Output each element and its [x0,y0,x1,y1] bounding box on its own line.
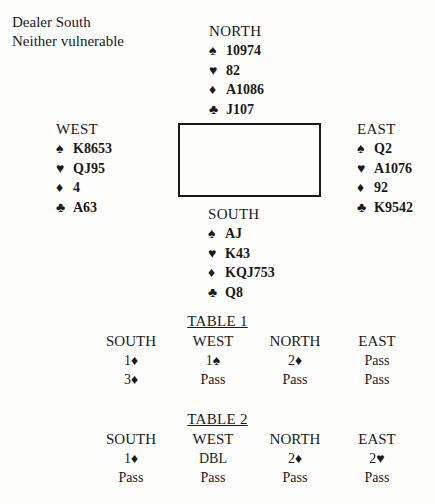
heart-icon: ♥ [357,159,374,179]
west-clubs: ♣A63 [56,198,112,218]
bid: DBL [172,449,254,468]
hand-north-label: NORTH [209,22,264,41]
table-diagram-box [178,123,321,197]
auction-1-title: TABLE 1 [0,313,435,330]
bid: Pass [90,468,172,487]
hand-south-label: SOUTH [208,205,275,224]
bid: 1♦ [90,351,172,370]
bid: Pass [336,370,418,389]
club-icon: ♣ [208,283,225,303]
auction-row: 1♦ DBL 2♦ 2♥ [90,449,420,468]
auction-row: Pass Pass Pass Pass [90,468,420,487]
bid: Pass [172,370,254,389]
south-spades: ♠AJ [208,224,275,244]
auction-header-row: SOUTH WEST NORTH EAST [90,332,420,351]
club-icon: ♣ [357,198,374,218]
auction-row: 3♦ Pass Pass Pass [90,370,420,389]
auction-1-grid: SOUTH WEST NORTH EAST 1♦ 1♠ 2♦ Pass 3♦ P… [90,332,420,389]
heart-icon: ♥ [209,61,226,81]
south-diamonds: ♦KQJ753 [208,263,275,283]
bid: Pass [172,468,254,487]
header-north: NORTH [254,430,336,449]
vulnerability-label: Neither vulnerable [12,32,124,51]
north-hearts: ♥82 [209,61,264,81]
spade-icon: ♠ [357,139,374,159]
hand-north: NORTH ♠10974 ♥82 ♦A1086 ♣J107 [209,22,264,119]
north-clubs: ♣J107 [209,100,264,120]
hand-west: WEST ♠K8653 ♥QJ95 ♦4 ♣A63 [56,120,112,217]
spade-icon: ♠ [209,41,226,61]
heart-icon: ♥ [208,244,225,264]
bid: 2♦ [254,449,336,468]
east-diamonds: ♦92 [357,178,413,198]
hand-east: EAST ♠Q2 ♥A1076 ♦92 ♣K9542 [357,120,413,217]
spade-icon: ♠ [56,139,73,159]
header-west: WEST [172,332,254,351]
bid: 1♠ [172,351,254,370]
south-hearts: ♥K43 [208,244,275,264]
bid: 2♦ [254,351,336,370]
header-south: SOUTH [90,332,172,351]
bid: Pass [336,351,418,370]
east-clubs: ♣K9542 [357,198,413,218]
diamond-icon: ♦ [208,263,225,283]
bid: Pass [254,370,336,389]
south-clubs: ♣Q8 [208,283,275,303]
east-hearts: ♥A1076 [357,159,413,179]
auction-2-grid: SOUTH WEST NORTH EAST 1♦ DBL 2♦ 2♥ Pass … [90,430,420,487]
spade-icon: ♠ [208,224,225,244]
header-south: SOUTH [90,430,172,449]
bid: Pass [254,468,336,487]
west-diamonds: ♦4 [56,178,112,198]
north-diamonds: ♦A1086 [209,80,264,100]
auction-row: 1♦ 1♠ 2♦ Pass [90,351,420,370]
hand-east-label: EAST [357,120,413,139]
club-icon: ♣ [56,198,73,218]
west-hearts: ♥QJ95 [56,159,112,179]
diamond-icon: ♦ [209,80,226,100]
heart-icon: ♥ [56,159,73,179]
diamond-icon: ♦ [56,178,73,198]
header-west: WEST [172,430,254,449]
bid: Pass [336,468,418,487]
bid: 2♥ [336,449,418,468]
deal-info: Dealer South Neither vulnerable [12,13,124,51]
auction-2-title: TABLE 2 [0,411,435,428]
east-spades: ♠Q2 [357,139,413,159]
west-spades: ♠K8653 [56,139,112,159]
header-north: NORTH [254,332,336,351]
bid: 3♦ [90,370,172,389]
hand-south: SOUTH ♠AJ ♥K43 ♦KQJ753 ♣Q8 [208,205,275,302]
dealer-label: Dealer South [12,13,124,32]
header-east: EAST [336,332,418,351]
club-icon: ♣ [209,100,226,120]
hand-west-label: WEST [56,120,112,139]
auction-header-row: SOUTH WEST NORTH EAST [90,430,420,449]
north-spades: ♠10974 [209,41,264,61]
header-east: EAST [336,430,418,449]
bid: 1♦ [90,449,172,468]
diamond-icon: ♦ [357,178,374,198]
